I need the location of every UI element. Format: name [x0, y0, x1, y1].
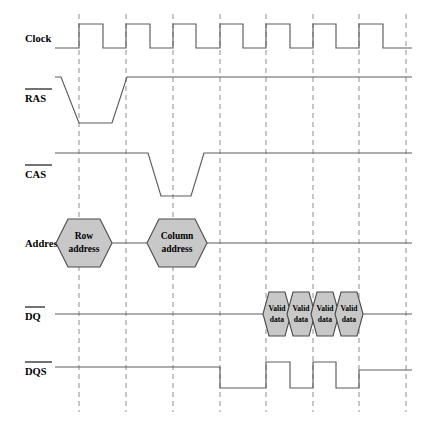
valid-data-4-line1: Valid — [340, 304, 358, 313]
data-beat-4: Valid data — [335, 292, 363, 336]
valid-data-2-line1: Valid — [292, 304, 310, 313]
signal-label-dqs: DQS — [25, 366, 47, 377]
row-address-line2: address — [69, 244, 100, 254]
signal-row-dq: DQ Valid data Valid data Valid data — [25, 292, 412, 336]
bus-cell-column-address: Column address — [147, 219, 207, 267]
row-address-hexagon — [56, 219, 112, 267]
column-address-line2: address — [162, 244, 193, 254]
timing-diagram-canvas: Clock RAS CAS Address Row address — [0, 0, 430, 437]
waveform-clock — [55, 24, 412, 48]
signal-row-clock: Clock — [25, 24, 412, 48]
signal-label-dq: DQ — [25, 311, 41, 322]
valid-data-4-line2: data — [342, 315, 357, 324]
valid-data-1-line1: Valid — [268, 304, 286, 313]
signal-row-address: Address Row address Column address — [25, 219, 412, 267]
signal-label-clock: Clock — [25, 33, 51, 44]
signal-row-ras: RAS — [25, 77, 412, 123]
column-address-line1: Column — [161, 231, 194, 241]
row-address-line1: Row — [75, 231, 94, 241]
signal-label-ras: RAS — [25, 93, 46, 104]
signal-row-dqs: DQS — [25, 362, 412, 388]
valid-data-1-line2: data — [270, 315, 285, 324]
signal-label-cas: CAS — [25, 169, 46, 180]
valid-data-hexagon-4 — [335, 292, 363, 336]
signal-row-cas: CAS — [25, 153, 412, 196]
valid-data-2-line2: data — [294, 315, 309, 324]
valid-data-3-line1: Valid — [316, 304, 334, 313]
gridline-group — [79, 14, 406, 412]
column-address-hexagon — [147, 219, 207, 267]
timing-diagram-figure: Clock RAS CAS Address Row address — [0, 0, 430, 437]
valid-data-3-line2: data — [318, 315, 333, 324]
bus-cell-row-address: Row address — [56, 219, 112, 267]
